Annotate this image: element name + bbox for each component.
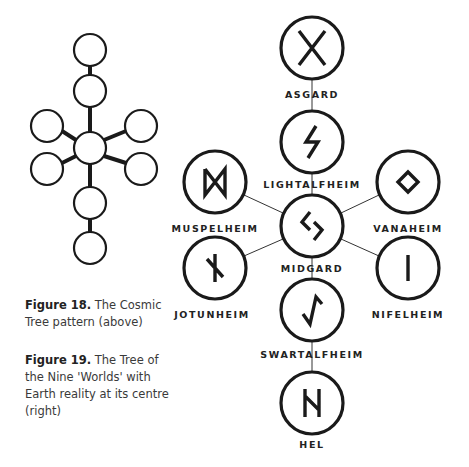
tree-node <box>74 132 106 164</box>
nifelheim-label: NIFELHEIM <box>372 309 444 320</box>
figure-18-title: Figure 18. <box>25 298 91 312</box>
cosmic-tree-figure <box>31 34 157 264</box>
tree-node <box>74 34 106 66</box>
figure-19-title: Figure 19. <box>25 353 91 367</box>
hel-label: HEL <box>299 439 324 450</box>
vanaheim-label: VANAHEIM <box>373 223 443 234</box>
vanaheim-circle <box>377 151 439 213</box>
tree-node <box>125 110 157 142</box>
jotunheim-label: JOTUNHEIM <box>173 309 250 320</box>
cosmic-tree-nodes <box>31 34 157 264</box>
tree-node <box>74 75 106 107</box>
tree-node <box>125 153 157 185</box>
figure-19-caption: Figure 19. The Tree of the Nine 'Worlds'… <box>25 352 175 420</box>
lightalfheim-label: LIGHTALFHEIM <box>263 179 361 190</box>
tree-node <box>74 232 106 264</box>
figure-18-caption: Figure 18. The Cosmic Tree pattern (abov… <box>25 297 175 331</box>
swartalfheim-label: SWARTALFHEIM <box>260 349 363 360</box>
tree-node <box>74 187 106 219</box>
asgard-label: ASGARD <box>285 89 339 100</box>
tree-node <box>31 153 63 185</box>
tree-node <box>31 110 63 142</box>
muspelheim-label: MUSPELHEIM <box>172 223 259 234</box>
midgard-label: MIDGARD <box>281 263 343 274</box>
midgard-circle <box>281 195 343 257</box>
nine-worlds-figure: ASGARD LIGHTALFHEIM MUSPELHEIM VANAHEIM … <box>172 17 445 450</box>
